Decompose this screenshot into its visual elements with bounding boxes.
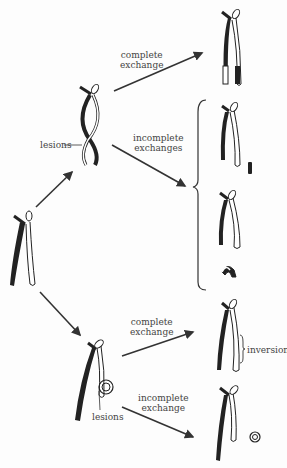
label-bottom-incomplete: incomplete exchange	[138, 393, 189, 413]
label-bottom-complete: complete exchange	[130, 317, 174, 337]
top-complete-result	[222, 8, 241, 85]
label-top-incomplete: incomplete exchanges	[133, 133, 184, 153]
label-bottom-lesions: lesions	[92, 412, 124, 422]
bottom-incomplete-result	[216, 384, 260, 461]
original-chromosome	[10, 211, 35, 286]
twisted-chromosome	[80, 83, 100, 165]
label-top-lesions: lesions	[40, 140, 72, 150]
inversion-brace	[240, 335, 245, 363]
arrows	[36, 53, 202, 437]
arrow-to-top-branch	[36, 172, 72, 207]
arrow-to-bottom-branch	[40, 292, 80, 335]
label-inversion: inversion	[247, 345, 287, 355]
bottom-complete-result	[217, 298, 239, 371]
brace-bracket	[193, 100, 206, 290]
label-top-complete: complete exchange	[120, 50, 164, 70]
ring-fragment	[250, 432, 260, 442]
top-incomplete-result-2	[219, 189, 240, 277]
chromosome-exchange-diagram: complete exchange incomplete exchanges l…	[0, 0, 287, 468]
top-incomplete-result-1	[221, 101, 252, 174]
looped-chromosome	[75, 338, 113, 421]
